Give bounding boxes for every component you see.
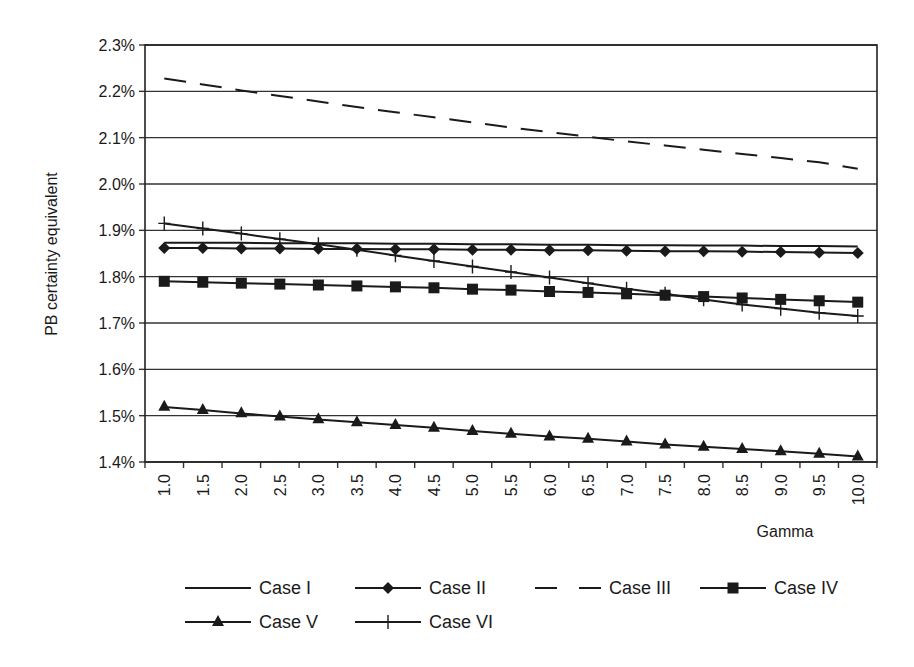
diamond-marker: [659, 245, 671, 257]
y-axis-title: PB certainty equivalent: [43, 172, 60, 336]
legend-label: Case II: [429, 578, 486, 598]
triangle-marker: [544, 430, 556, 441]
x-tick-label: 5.0: [464, 474, 481, 496]
triangle-marker: [389, 418, 401, 429]
y-tick-label: 2.2%: [99, 83, 135, 100]
y-tick-label: 2.3%: [99, 37, 135, 54]
triangle-marker: [852, 449, 864, 460]
triangle-marker: [621, 435, 633, 446]
plus-marker: [235, 227, 247, 241]
legend-item-case-iv: Case IV: [700, 578, 838, 598]
diamond-marker: [621, 245, 633, 257]
triangle-marker: [659, 437, 671, 448]
plus-marker: [852, 309, 864, 323]
diamond-marker: [466, 244, 478, 256]
x-tick-label: 5.5: [503, 474, 520, 496]
legend-label: Case III: [609, 578, 671, 598]
x-tick-label: 8.0: [696, 474, 713, 496]
plus-marker: [428, 254, 440, 268]
diamond-marker: [382, 582, 394, 594]
square-marker: [728, 583, 739, 594]
x-tick-label: 3.0: [310, 474, 327, 496]
square-marker: [159, 276, 170, 287]
square-marker: [814, 295, 825, 306]
triangle-marker: [698, 440, 710, 451]
triangle-marker: [582, 432, 594, 443]
legend-label: Case IV: [774, 578, 838, 598]
y-axis-ticks: 1.4%1.5%1.6%1.7%1.8%1.9%2.0%2.1%2.2%2.3%: [99, 37, 145, 471]
square-marker: [236, 278, 247, 289]
square-marker: [544, 286, 555, 297]
triangle-marker: [505, 427, 517, 438]
x-tick-label: 8.5: [734, 474, 751, 496]
square-marker: [506, 285, 517, 296]
diamond-marker: [544, 244, 556, 256]
data-series: [158, 78, 863, 460]
plus-marker: [382, 615, 394, 629]
legend-label: Case I: [259, 578, 311, 598]
diamond-marker: [736, 246, 748, 258]
diamond-marker: [235, 242, 247, 254]
diamond-marker: [428, 243, 440, 255]
triangle-marker: [351, 415, 363, 426]
y-tick-label: 1.6%: [99, 361, 135, 378]
x-tick-label: 10.0: [850, 474, 867, 505]
x-tick-label: 7.0: [619, 474, 636, 496]
series-case-iv: [159, 276, 863, 308]
triangle-marker: [197, 403, 209, 414]
y-tick-label: 1.8%: [99, 269, 135, 286]
plus-marker: [544, 271, 556, 285]
diamond-marker: [505, 244, 517, 256]
diamond-marker: [813, 247, 825, 259]
line-chart: 1.4%1.5%1.6%1.7%1.8%1.9%2.0%2.1%2.2%2.3%…: [0, 0, 914, 667]
legend-label: Case VI: [429, 612, 493, 632]
square-marker: [351, 280, 362, 291]
x-tick-label: 3.5: [349, 474, 366, 496]
triangle-marker: [813, 447, 825, 458]
triangle-marker: [312, 412, 324, 423]
x-tick-label: 6.0: [542, 474, 559, 496]
square-marker: [852, 297, 863, 308]
triangle-marker: [235, 406, 247, 417]
x-tick-label: 4.5: [426, 474, 443, 496]
x-tick-label: 7.5: [657, 474, 674, 496]
x-tick-label: 6.5: [580, 474, 597, 496]
square-marker: [197, 277, 208, 288]
diamond-marker: [775, 246, 787, 258]
triangle-marker: [428, 421, 440, 432]
x-tick-label: 1.0: [156, 474, 173, 496]
legend-item-case-iii: Case III: [535, 578, 671, 598]
legend-item-case-vi: Case VI: [355, 612, 493, 632]
square-marker: [428, 282, 439, 293]
triangle-marker: [212, 615, 224, 626]
plus-marker: [158, 216, 170, 230]
plus-marker: [466, 259, 478, 273]
legend-item-case-ii: Case II: [355, 578, 486, 598]
square-marker: [467, 284, 478, 295]
y-tick-label: 1.5%: [99, 408, 135, 425]
diamond-marker: [698, 245, 710, 257]
series-case-v: [158, 400, 863, 461]
x-tick-label: 9.0: [773, 474, 790, 496]
y-tick-label: 1.9%: [99, 222, 135, 239]
plus-marker: [197, 221, 209, 235]
legend-item-case-v: Case V: [185, 612, 318, 632]
triangle-marker: [736, 442, 748, 453]
triangle-marker: [775, 444, 787, 455]
triangle-marker: [466, 424, 478, 435]
triangle-marker: [158, 400, 170, 411]
x-axis-title: Gamma: [757, 523, 814, 540]
legend-item-case-i: Case I: [185, 578, 311, 598]
y-tick-label: 2.0%: [99, 176, 135, 193]
series-case-ii: [158, 242, 863, 259]
x-tick-label: 1.5: [195, 474, 212, 496]
diamond-marker: [582, 244, 594, 256]
legend-label: Case V: [259, 612, 318, 632]
plus-marker: [351, 243, 363, 257]
square-marker: [313, 280, 324, 291]
y-tick-label: 2.1%: [99, 130, 135, 147]
y-tick-label: 1.7%: [99, 315, 135, 332]
series-case-vi: [158, 216, 863, 323]
y-tick-label: 1.4%: [99, 454, 135, 471]
legend: Case ICase IICase IIICase IVCase VCase V…: [185, 578, 838, 632]
